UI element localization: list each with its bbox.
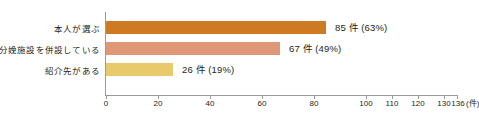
x-tick-label-3: 60 <box>258 100 267 108</box>
category-label-1: 分娩施設を併設している <box>0 46 100 55</box>
bar-2 <box>106 63 173 76</box>
category-label-2: 紹介先がある <box>45 67 100 76</box>
bar-value-1: 67 件 (49%) <box>289 44 341 54</box>
bar-value-2: 26 件 (19%) <box>182 65 234 75</box>
category-label-0: 本人が選ぶ <box>54 25 100 34</box>
x-tick-label-1: 20 <box>154 100 163 108</box>
x-tick-label-7: 120 <box>411 100 424 108</box>
x-tick-label-8: 130 <box>437 100 450 108</box>
plot-area: 85 件 (63%) 67 件 (49%) 26 件 (19%) 0 20 40… <box>105 0 458 120</box>
bar-value-0: 85 件 (63%) <box>335 23 387 33</box>
x-tick-label-0: 0 <box>104 100 108 108</box>
bar-1 <box>106 42 280 55</box>
x-tick-label-5: 100 <box>359 100 372 108</box>
x-tick-label-6: 110 <box>386 100 399 108</box>
category-label-column: 本人が選ぶ 分娩施設を併設している 紹介先がある <box>0 0 100 120</box>
x-axis-unit-label: (件) <box>466 100 479 108</box>
x-tick-label-9: 136 <box>451 100 464 108</box>
bar-0 <box>106 21 326 34</box>
x-tick-label-2: 40 <box>206 100 215 108</box>
x-tick-label-4: 80 <box>310 100 319 108</box>
